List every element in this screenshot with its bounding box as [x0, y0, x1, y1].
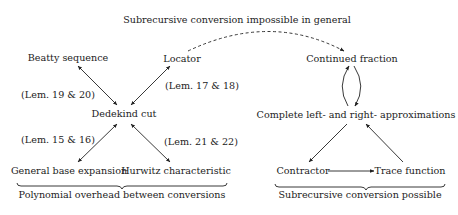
edge-label-lem-19-20: (Lem. 19 & 20)	[21, 90, 95, 100]
node-dedekind-cut: Dedekind cut	[92, 109, 157, 119]
diagram-title: Subrecursive conversion impossible in ge…	[123, 15, 351, 25]
left-underbrace	[17, 183, 227, 189]
group-label-subrecursive-possible: Subrecursive conversion possible	[278, 190, 441, 200]
node-complete-approximations: Complete left- and right- approximations	[257, 110, 456, 120]
node-trace-function: Trace function	[375, 166, 446, 176]
node-beatty-sequence: Beatty sequence	[28, 53, 108, 63]
node-continued-fraction: Continued fraction	[306, 54, 398, 64]
group-label-polynomial-overhead: Polynomial overhead between conversions	[19, 190, 226, 200]
edge-trace-complete	[366, 124, 403, 162]
edge-label-lem-15-16: (Lem. 15 & 16)	[21, 135, 95, 145]
edge-complete-to-continued	[342, 66, 349, 106]
edge-continued-to-complete	[354, 66, 361, 106]
edge-locator-continued-dashed	[188, 32, 344, 52]
edge-complete-contractor	[309, 124, 347, 162]
node-locator: Locator	[163, 54, 200, 64]
edge-label-lem-21-22: (Lem. 21 & 22)	[164, 137, 238, 147]
node-contractor: Contractor	[276, 166, 329, 176]
edge-label-lem-17-18: (Lem. 17 & 18)	[165, 81, 239, 91]
node-general-base-expansion: General base expansion	[11, 166, 127, 176]
diagram-edges	[0, 0, 458, 215]
node-hurwitz-characteristic: Hurwitz characteristic	[121, 166, 231, 176]
